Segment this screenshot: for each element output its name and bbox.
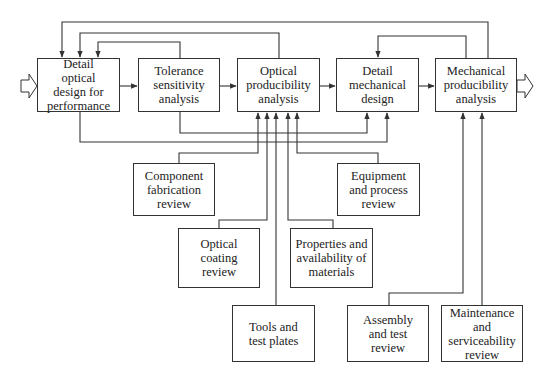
box-label: Properties and availability of materials (296, 237, 368, 279)
box-label: Detail optical design for performance (47, 57, 110, 113)
box-maintenance-serviceability: Maintenance and serviceability review (441, 305, 523, 362)
box-tools-test-plates: Tools and test plates (232, 305, 315, 362)
box-label: Equipment and process review (349, 169, 408, 211)
box-detail-optical-design: Detail optical design for performance (37, 58, 120, 112)
box-label: Optical producibility analysis (246, 64, 311, 106)
box-label: Tools and test plates (249, 320, 299, 348)
output-arrow-icon (517, 74, 533, 98)
box-label: Component fabrication review (145, 169, 203, 211)
box-label: Optical coating review (201, 237, 238, 279)
box-label: Tolerance sensitivity analysis (153, 64, 204, 106)
box-component-fabrication: Component fabrication review (133, 163, 215, 216)
box-optical-producibility: Optical producibility analysis (237, 58, 320, 112)
box-assembly-test: Assembly and test review (347, 305, 429, 362)
input-arrow-icon (21, 74, 37, 98)
box-mechanical-producibility: Mechanical producibility analysis (435, 58, 517, 112)
box-label: Mechanical producibility analysis (444, 64, 509, 106)
box-properties-materials: Properties and availability of materials (290, 228, 373, 288)
box-label: Assembly and test review (363, 313, 413, 355)
box-label: Maintenance and serviceability review (448, 306, 515, 362)
box-label: Detail mechanical design (349, 64, 406, 106)
box-tolerance-sensitivity: Tolerance sensitivity analysis (138, 58, 220, 112)
box-detail-mechanical-design: Detail mechanical design (336, 58, 419, 112)
box-optical-coating: Optical coating review (178, 228, 260, 288)
box-equipment-process: Equipment and process review (337, 163, 420, 216)
